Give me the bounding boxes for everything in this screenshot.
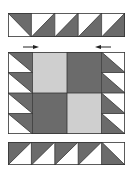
arrow-left-icon (95, 44, 111, 50)
middle-section-graphic (8, 52, 125, 134)
patch-top-left (33, 52, 68, 93)
press-left-arrow (95, 44, 111, 50)
middle-section (8, 52, 125, 134)
bottom-strip (8, 142, 125, 165)
patch-bottom-left (33, 93, 68, 134)
top-strip-graphic (8, 13, 125, 37)
patch-bottom-right (67, 93, 102, 134)
patch-top-right (67, 52, 102, 93)
arrow-right-icon (23, 44, 39, 50)
bottom-strip-graphic (8, 142, 125, 165)
press-right-arrow (23, 44, 39, 50)
top-strip (8, 13, 125, 37)
